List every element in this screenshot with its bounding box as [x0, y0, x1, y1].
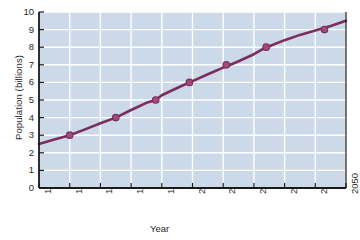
- population-growth-chart: Population (billions) Year 012345678910 …: [0, 0, 355, 240]
- plot-area: [0, 0, 355, 240]
